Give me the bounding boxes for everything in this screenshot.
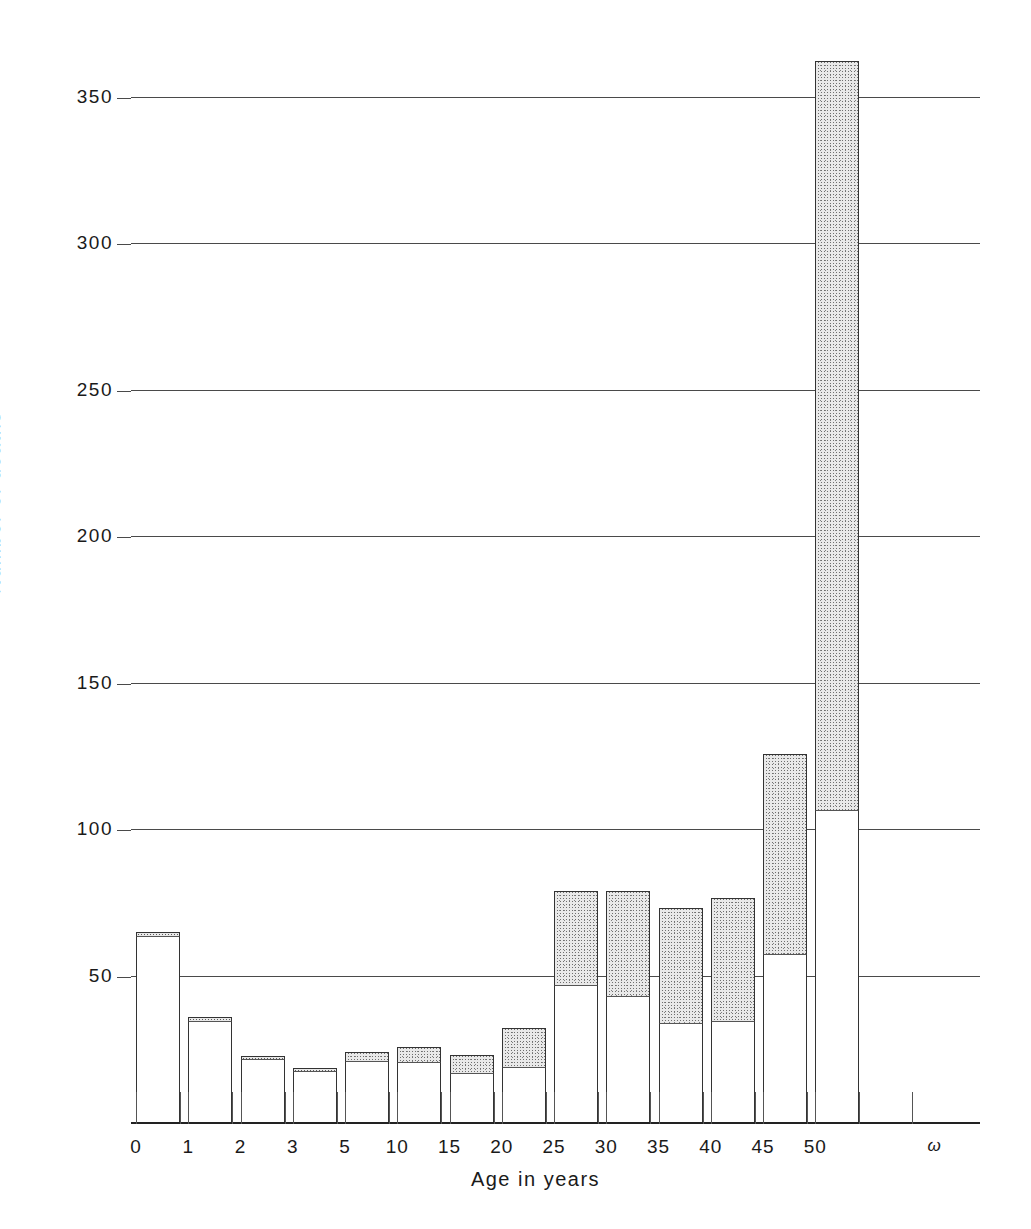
x-tick-mark-20 bbox=[502, 1092, 503, 1124]
x-tick-mark-0 bbox=[136, 1092, 137, 1124]
x-tick-label-45: 45 bbox=[751, 1136, 774, 1158]
x-tick-mark-2 bbox=[241, 1092, 242, 1124]
bar-segment-lower bbox=[136, 937, 180, 1122]
x-tick-label-35: 35 bbox=[647, 1136, 670, 1158]
x-tick-mark-5 bbox=[345, 1092, 346, 1124]
x-tick-mark-35 bbox=[659, 1092, 660, 1124]
x-tick-mark-edge-1 bbox=[232, 1092, 233, 1124]
bar-1-2[interactable] bbox=[188, 1017, 232, 1122]
x-tick-mark-40 bbox=[711, 1092, 712, 1124]
bar-segment-upper bbox=[554, 891, 598, 986]
y-tick-label-100: 100 bbox=[0, 818, 113, 840]
x-tick-mark-edge-4 bbox=[389, 1092, 390, 1124]
x-tick-label-40: 40 bbox=[699, 1136, 722, 1158]
x-tick-label-5: 5 bbox=[339, 1136, 351, 1158]
bar-segment-lower bbox=[554, 986, 598, 1122]
bar-segment-upper bbox=[711, 898, 755, 1023]
x-tick-mark-45 bbox=[763, 1092, 764, 1124]
y-tick-mark-50 bbox=[117, 977, 131, 978]
bar-segment-lower bbox=[450, 1074, 494, 1122]
bar-40-45[interactable] bbox=[711, 898, 755, 1122]
bar-segment-upper bbox=[345, 1052, 389, 1062]
y-tick-label-150: 150 bbox=[0, 672, 113, 694]
x-tick-mark-1 bbox=[188, 1092, 189, 1124]
bar-segment-upper bbox=[293, 1068, 337, 1072]
x-tick-mark-edge-5 bbox=[441, 1092, 442, 1124]
x-tick-mark-edge-0 bbox=[180, 1092, 181, 1124]
bar-25-30[interactable] bbox=[554, 891, 598, 1122]
bar-50-[interactable] bbox=[815, 61, 859, 1122]
bar-segment-upper bbox=[606, 891, 650, 998]
bar-35-40[interactable] bbox=[659, 908, 703, 1122]
y-tick-mark-200 bbox=[117, 537, 131, 538]
y-tick-mark-350 bbox=[117, 98, 131, 99]
bar-segment-upper bbox=[188, 1017, 232, 1023]
x-tick-mark-30 bbox=[606, 1092, 607, 1124]
y-tick-label-350: 350 bbox=[0, 86, 113, 108]
x-tick-mark-edge-14 bbox=[912, 1092, 913, 1124]
x-tick-mark-15 bbox=[450, 1092, 451, 1124]
bar-30-35[interactable] bbox=[606, 891, 650, 1122]
bar-segment-lower bbox=[763, 955, 807, 1122]
bar-segment-lower bbox=[659, 1024, 703, 1122]
x-tick-mark-25 bbox=[554, 1092, 555, 1124]
x-tick-mark-edge-11 bbox=[755, 1092, 756, 1124]
y-tick-mark-250 bbox=[117, 391, 131, 392]
bar-segment-upper bbox=[659, 908, 703, 1024]
bar-segment-upper bbox=[241, 1056, 285, 1060]
y-tick-label-250: 250 bbox=[0, 379, 113, 401]
bar-45-50[interactable] bbox=[763, 754, 807, 1122]
x-tick-label-1: 1 bbox=[182, 1136, 194, 1158]
x-tick-label-25: 25 bbox=[542, 1136, 565, 1158]
bar-3-5[interactable] bbox=[293, 1068, 337, 1122]
x-axis-title-text: Age in years bbox=[431, 1168, 600, 1190]
x-tick-mark-edge-9 bbox=[650, 1092, 651, 1124]
x-tick-label-50: 50 bbox=[804, 1136, 827, 1158]
x-tick-label-2: 2 bbox=[235, 1136, 247, 1158]
bar-segment-lower bbox=[188, 1022, 232, 1122]
bar-15-20[interactable] bbox=[450, 1055, 494, 1122]
x-tick-mark-edge-6 bbox=[494, 1092, 495, 1124]
bar-segment-upper bbox=[397, 1047, 441, 1063]
bar-segment-upper bbox=[450, 1055, 494, 1074]
x-tick-label-3: 3 bbox=[287, 1136, 299, 1158]
x-tick-mark-3 bbox=[293, 1092, 294, 1124]
x-tick-mark-edge-12 bbox=[807, 1092, 808, 1124]
bar-10-15[interactable] bbox=[397, 1047, 441, 1122]
x-tick-mark-50 bbox=[815, 1092, 816, 1124]
x-tick-label-20: 20 bbox=[490, 1136, 513, 1158]
x-tick-mark-edge-7 bbox=[546, 1092, 547, 1124]
bar-20-25[interactable] bbox=[502, 1028, 546, 1122]
bar-segment-lower bbox=[345, 1062, 389, 1122]
bar-segment-upper bbox=[815, 61, 859, 811]
x-tick-label-15: 15 bbox=[438, 1136, 461, 1158]
x-tick-mark-edge-3 bbox=[337, 1092, 338, 1124]
x-axis-title: Age in years bbox=[0, 1168, 1031, 1191]
y-tick-label-50: 50 bbox=[0, 965, 113, 987]
chart-root: Number of deaths 35030025020015010050 01… bbox=[0, 0, 1031, 1229]
plot-area bbox=[131, 55, 980, 1122]
y-tick-label-300: 300 bbox=[0, 232, 113, 254]
bar-segment-lower bbox=[606, 997, 650, 1122]
x-tick-mark-edge-2 bbox=[285, 1092, 286, 1124]
y-tick-mark-100 bbox=[117, 830, 131, 831]
x-tick-label-ω: ω bbox=[928, 1136, 942, 1156]
y-tick-mark-150 bbox=[117, 684, 131, 685]
bar-0-1[interactable] bbox=[136, 932, 180, 1122]
y-tick-mark-300 bbox=[117, 244, 131, 245]
bar-segment-lower bbox=[711, 1022, 755, 1122]
bar-2-3[interactable] bbox=[241, 1056, 285, 1122]
bar-5-10[interactable] bbox=[345, 1052, 389, 1122]
y-tick-label-200: 200 bbox=[0, 525, 113, 547]
bar-segment-upper bbox=[136, 932, 180, 938]
bar-segment-lower bbox=[293, 1072, 337, 1122]
bar-segment-lower bbox=[397, 1063, 441, 1122]
bar-segment-upper bbox=[502, 1028, 546, 1068]
bar-segment-lower bbox=[502, 1068, 546, 1122]
x-tick-label-0: 0 bbox=[130, 1136, 142, 1158]
x-tick-label-30: 30 bbox=[595, 1136, 618, 1158]
bar-segment-lower bbox=[815, 811, 859, 1122]
x-axis: 01235101520253035404550ω bbox=[131, 1122, 980, 1124]
bar-segment-lower bbox=[241, 1060, 285, 1122]
x-tick-label-10: 10 bbox=[386, 1136, 409, 1158]
